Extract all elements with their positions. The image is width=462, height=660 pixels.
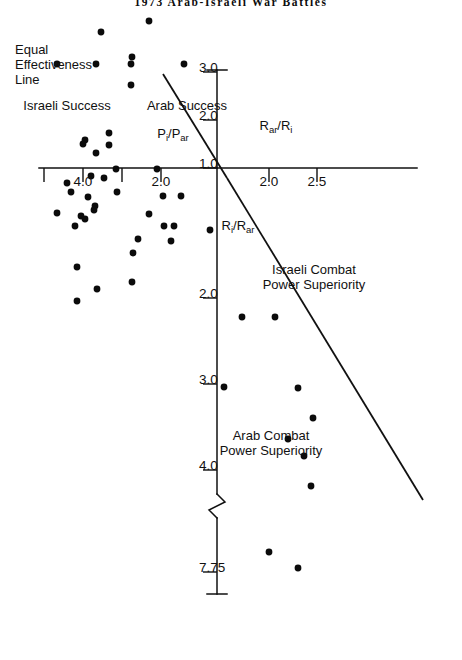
r-i-sub-ar: ar [246,224,254,235]
svg-text:Arab Success: Arab Success [147,98,228,113]
data-point [221,384,228,391]
tick-label-pn-30: 3.0 [199,372,218,387]
data-point [181,61,188,68]
data-point [82,216,89,223]
tick-label-pn-775: 7.75 [199,560,225,575]
r-ar-slash: /R [277,118,290,133]
tick-label-p-30: 3.0 [199,60,218,75]
tick-label-r-40: 4.0 [74,174,93,189]
svg-text:Pi/Par: Pi/Par [157,126,189,143]
axis-p-ratio [207,70,227,594]
equal-line-2: Effectiveness [15,57,93,72]
data-point [94,286,101,293]
tick-label-pn-20: 2.0 [199,286,218,301]
tick-label-group-r-lower: 2.0 2.5 [260,174,327,189]
data-point [129,54,136,61]
annotation-equal-effectiveness: Equal Effectiveness Line [15,42,93,87]
data-point [85,194,92,201]
tick-label-rar-20: 2.0 [260,174,279,189]
data-point [114,189,121,196]
r-i-slash: /R [233,218,246,233]
tick-label-pn-40: 4.0 [199,458,218,473]
data-point [98,29,105,36]
data-point [113,166,120,173]
svg-text:Ri/Rar: Ri/Rar [222,218,255,235]
data-point [308,483,315,490]
tick-label-rar-25: 2.5 [308,174,327,189]
data-point [161,223,168,230]
figure-container: 1973 Arab-Israeli War Battles [0,0,462,660]
data-point [207,227,214,234]
tick-label-group-p-positive: 1.0 2.0 3.0 [199,60,218,171]
tick-label-p-10: 1.0 [199,156,218,171]
p-ratio-sub-ar: ar [180,132,188,143]
data-point [129,279,136,286]
data-point [130,250,137,257]
israeli-power-2: Power Superiority [263,277,366,292]
data-point [146,211,153,218]
data-point [72,223,79,230]
ticks-p-negative [203,298,217,572]
r-i-main: R [222,218,231,233]
annotation-israeli-success: Israeli Success [23,98,111,113]
data-point [93,150,100,157]
data-point [64,180,71,187]
data-point [154,166,161,173]
equal-line-3: Line [15,72,40,87]
equal-line-1: Equal [15,42,48,57]
data-point [146,18,153,25]
arab-power-2: Power Superiority [220,443,323,458]
data-point [295,565,302,572]
data-point [310,415,317,422]
data-point [171,223,178,230]
data-point [266,549,273,556]
data-point [160,193,167,200]
scatter-plot-svg: 1.0 2.0 3.0 2.0 3.0 4.0 7.75 2.0 4.0 [21,30,441,630]
data-point [295,385,302,392]
data-point [128,61,135,68]
tick-label-group-p-negative: 2.0 3.0 4.0 7.75 [199,286,225,575]
annotation-israeli-power: Israeli Combat Power Superiority [263,262,366,292]
data-point [80,141,87,148]
annotation-arab-power: Arab Combat Power Superiority [220,428,323,458]
axis-label-r-i-ratio: Ri/Rar [222,218,255,235]
plot-area: 1.0 2.0 3.0 2.0 3.0 4.0 7.75 2.0 4.0 [21,30,441,630]
data-point [93,61,100,68]
data-point [101,175,108,182]
axis-break-zigzag [209,494,225,518]
r-ar-sub-i: i [290,124,292,135]
data-point [272,314,279,321]
data-point [74,264,81,271]
tick-label-r-20: 2.0 [152,174,171,189]
data-point [68,189,75,196]
page-title: 1973 Arab-Israeli War Battles [0,0,462,8]
data-point [239,314,246,321]
rotated-plot-canvas: 1.0 2.0 3.0 2.0 3.0 4.0 7.75 2.0 4.0 [21,30,441,630]
annotation-arab-success: Arab Success [147,98,228,113]
israeli-power-1: Israeli Combat [272,262,356,277]
data-point [54,210,61,217]
data-point [168,238,175,245]
arab-power-1: Arab Combat [233,428,310,443]
svg-text:Rar/Ri: Rar/Ri [260,118,293,135]
data-point [74,298,81,305]
r-ar-main: R [260,118,269,133]
data-point [106,130,113,137]
svg-text:Israeli Success: Israeli Success [23,98,111,113]
axis-label-p-ratio: Pi/Par [157,126,189,143]
data-point [178,193,185,200]
data-point [106,142,113,149]
data-point [91,207,98,214]
data-point [128,82,135,89]
p-ratio-main: P [157,126,166,141]
data-point [135,236,142,243]
p-ratio-slash: /P [168,126,180,141]
axis-label-r-ar-ratio: Rar/Ri [260,118,293,135]
r-ar-sub-ar: ar [269,124,277,135]
